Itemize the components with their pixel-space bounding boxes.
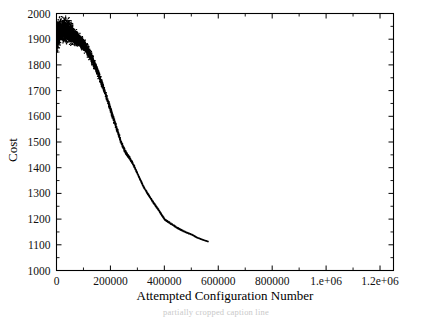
x-axis-title: Attempted Configuration Number <box>137 288 315 303</box>
cost-vs-configuration-chart: 02000004000006000008000001.e+061.2e+06 1… <box>0 0 422 324</box>
y-tick-label: 1500 <box>28 136 51 148</box>
y-tick-label: 1000 <box>28 265 51 277</box>
x-tick-label: 0 <box>54 275 60 287</box>
y-tick-label: 1800 <box>28 59 51 71</box>
y-tick-label: 1300 <box>28 187 51 199</box>
y-tick-label: 1900 <box>28 33 51 45</box>
x-tick-label: 400000 <box>147 275 182 287</box>
x-tick-label: 200000 <box>93 275 128 287</box>
x-tick-label: 1.2e+06 <box>361 275 399 287</box>
x-tick-label: 1.e+06 <box>310 275 342 287</box>
y-tick-label: 1400 <box>28 162 51 174</box>
x-tick-label: 600000 <box>201 275 236 287</box>
y-tick-label: 1600 <box>28 110 51 122</box>
cropped-caption: partially cropped caption line <box>66 307 366 319</box>
y-axis-title: Cost <box>5 138 20 162</box>
y-tick-label: 1200 <box>28 213 51 225</box>
figure-container: 02000004000006000008000001.e+061.2e+06 1… <box>0 0 422 324</box>
x-tick-label: 800000 <box>255 275 290 287</box>
y-tick-label: 1700 <box>28 85 51 97</box>
y-tick-label: 2000 <box>28 8 51 20</box>
y-tick-label: 1100 <box>28 239 51 251</box>
